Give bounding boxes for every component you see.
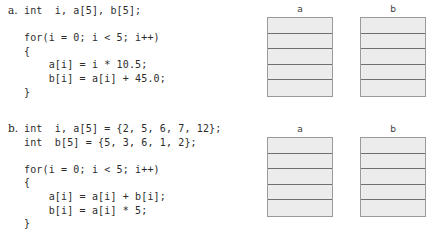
array-table-top-b: b bbox=[360, 4, 426, 97]
array-cell[interactable] bbox=[268, 49, 332, 65]
array-table-top-a: a bbox=[267, 4, 333, 97]
problem-a-label: a. bbox=[8, 4, 18, 18]
array-box-bottom-a bbox=[267, 137, 333, 217]
array-cell[interactable] bbox=[268, 80, 332, 96]
exercise-page: a. int i, a[5], b[5]; for(i = 0; i < 5; … bbox=[0, 0, 429, 241]
array-cell[interactable] bbox=[268, 185, 332, 201]
array-cell[interactable] bbox=[268, 65, 332, 81]
array-cell[interactable] bbox=[268, 34, 332, 50]
array-cell[interactable] bbox=[361, 200, 425, 216]
array-cell[interactable] bbox=[361, 65, 425, 81]
problem-b-label: b. bbox=[8, 122, 18, 136]
problem-a-code: int i, a[5], b[5]; for(i = 0; i < 5; i++… bbox=[24, 4, 166, 99]
array-cell[interactable] bbox=[361, 185, 425, 201]
array-title-top-a: a bbox=[267, 4, 333, 17]
array-cell[interactable] bbox=[268, 18, 332, 34]
array-diagrams-column: a b bbox=[258, 0, 429, 241]
array-cell[interactable] bbox=[268, 138, 332, 154]
array-cell[interactable] bbox=[361, 18, 425, 34]
array-table-bottom-b: b bbox=[360, 124, 426, 217]
problem-b-code: int i, a[5] = {2, 5, 6, 7, 12}; int b[5]… bbox=[24, 122, 221, 231]
array-box-top-b bbox=[360, 17, 426, 97]
array-cell[interactable] bbox=[268, 169, 332, 185]
array-cell[interactable] bbox=[361, 154, 425, 170]
array-cell[interactable] bbox=[268, 200, 332, 216]
array-cell[interactable] bbox=[361, 34, 425, 50]
array-cell[interactable] bbox=[361, 80, 425, 96]
array-cell[interactable] bbox=[361, 138, 425, 154]
array-box-bottom-b bbox=[360, 137, 426, 217]
array-title-bottom-b: b bbox=[360, 124, 426, 137]
array-box-top-a bbox=[267, 17, 333, 97]
array-table-bottom-a: a bbox=[267, 124, 333, 217]
array-cell[interactable] bbox=[361, 169, 425, 185]
array-title-top-b: b bbox=[360, 4, 426, 17]
array-cell[interactable] bbox=[361, 49, 425, 65]
code-listings-column: a. int i, a[5], b[5]; for(i = 0; i < 5; … bbox=[0, 0, 258, 241]
array-cell[interactable] bbox=[268, 154, 332, 170]
array-title-bottom-a: a bbox=[267, 124, 333, 137]
